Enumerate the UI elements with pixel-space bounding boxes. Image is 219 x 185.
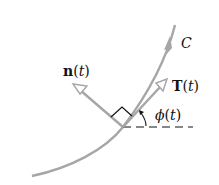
normal-vector-arrowhead-icon — [73, 84, 87, 94]
angle-arc — [141, 113, 146, 126]
right-angle-marker — [111, 107, 132, 117]
normal-label-symbol: n — [63, 63, 73, 79]
tangent-label-paren-close: ) — [194, 78, 199, 94]
angle-label-symbol: ϕ — [155, 107, 165, 123]
curve-diagram: n(t) T(t) ϕ(t) C — [0, 0, 219, 185]
normal-label-paren-close: ) — [84, 63, 89, 79]
tangent-label: T(t) — [172, 78, 199, 94]
normal-vector-shaft — [80, 90, 123, 127]
tangent-label-symbol: T — [172, 78, 183, 94]
normal-label: n(t) — [63, 63, 90, 79]
curve-c — [32, 25, 175, 176]
angle-label-paren-close: ) — [176, 107, 181, 123]
angle-label: ϕ(t) — [155, 107, 181, 123]
curve-label: C — [181, 35, 192, 51]
